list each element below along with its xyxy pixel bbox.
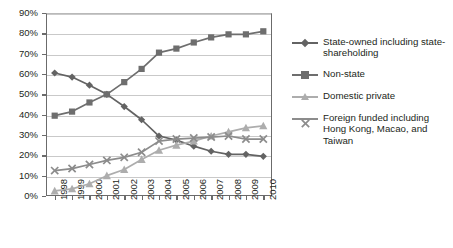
y-axis-tick-label: 80% bbox=[4, 28, 38, 38]
x-icon bbox=[292, 113, 318, 125]
y-axis-tick-label: 0% bbox=[4, 191, 38, 201]
y-axis-tick-mark bbox=[42, 33, 46, 34]
y-axis-tick-label: 40% bbox=[4, 110, 38, 120]
y-axis-tick-mark bbox=[42, 94, 46, 95]
gridline bbox=[47, 55, 271, 56]
x-axis-tick-label: 2003 bbox=[146, 179, 156, 200]
square-icon bbox=[292, 69, 318, 81]
gridline bbox=[47, 14, 271, 15]
x-axis-tick-label: 2007 bbox=[215, 179, 225, 200]
gridline bbox=[47, 116, 271, 117]
gridline bbox=[47, 95, 271, 96]
chart-figure: 90%80%70%60%50%40%30%20%10%0% 1998199920… bbox=[0, 0, 453, 248]
x-axis-tick-label: 2008 bbox=[233, 179, 243, 200]
y-axis-tick-mark bbox=[42, 176, 46, 177]
x-axis-tick-mark bbox=[229, 196, 230, 200]
x-axis-tick-mark bbox=[176, 196, 177, 200]
legend-item-3[interactable]: Foreign funded including Hong Kong, Maca… bbox=[292, 112, 450, 146]
x-axis-tick-mark bbox=[142, 196, 143, 200]
legend-item-1[interactable]: Non-state bbox=[292, 68, 450, 81]
chart-legend: State-owned including state-shareholding… bbox=[292, 36, 450, 155]
x-axis-tick-label: 1998 bbox=[59, 179, 69, 200]
x-axis-tick-mark bbox=[194, 196, 195, 200]
x-axis-tick-label: 2004 bbox=[163, 179, 173, 200]
gridline bbox=[47, 156, 271, 157]
y-axis-tick-mark bbox=[42, 155, 46, 156]
diamond-icon bbox=[292, 37, 318, 49]
x-axis-tick-mark bbox=[246, 196, 247, 200]
x-axis-tick-label: 2010 bbox=[268, 179, 278, 200]
y-axis-tick-label: 60% bbox=[4, 69, 38, 79]
x-axis-tick-label: 2000 bbox=[94, 179, 104, 200]
x-axis-tick-label: 2009 bbox=[250, 179, 260, 200]
x-axis-tick-label: 2002 bbox=[129, 179, 139, 200]
x-axis-tick-mark bbox=[72, 196, 73, 200]
x-axis-tick-mark bbox=[211, 196, 212, 200]
y-axis-tick-label: 30% bbox=[4, 130, 38, 140]
x-axis-tick-mark bbox=[263, 196, 264, 200]
legend-item-2[interactable]: Domestic private bbox=[292, 90, 450, 103]
gridline bbox=[47, 177, 271, 178]
y-axis-tick-label: 70% bbox=[4, 49, 38, 59]
gridline bbox=[47, 136, 271, 137]
y-axis-tick-mark bbox=[42, 135, 46, 136]
y-axis-tick-mark bbox=[42, 54, 46, 55]
x-axis-tick-mark bbox=[124, 196, 125, 200]
legend-item-label: Foreign funded including Hong Kong, Maca… bbox=[323, 112, 450, 146]
x-axis-tick-label: 2006 bbox=[198, 179, 208, 200]
x-axis-tick-mark bbox=[89, 196, 90, 200]
y-axis-tick-label: 10% bbox=[4, 171, 38, 181]
legend-item-label: Non-state bbox=[323, 68, 365, 79]
legend-item-label: State-owned including state-shareholding bbox=[323, 36, 450, 59]
y-axis-tick-mark bbox=[42, 13, 46, 14]
x-axis-tick-mark bbox=[107, 196, 108, 200]
gridline bbox=[47, 34, 271, 35]
gridline bbox=[47, 75, 271, 76]
y-axis-tick-label: 90% bbox=[4, 8, 38, 18]
x-axis-tick-mark bbox=[159, 196, 160, 200]
x-axis-tick-label: 1999 bbox=[76, 179, 86, 200]
triangle-icon bbox=[292, 91, 318, 103]
y-axis-tick-label: 50% bbox=[4, 89, 38, 99]
y-axis-tick-mark bbox=[42, 115, 46, 116]
y-axis-tick-mark bbox=[42, 74, 46, 75]
plot-area bbox=[46, 13, 272, 196]
legend-item-label: Domestic private bbox=[323, 90, 395, 101]
x-axis-tick-mark bbox=[55, 196, 56, 200]
legend-item-0[interactable]: State-owned including state-shareholding bbox=[292, 36, 450, 59]
x-axis-tick-label: 2005 bbox=[181, 179, 191, 200]
y-axis-tick-mark bbox=[42, 196, 46, 197]
y-axis-tick-label: 20% bbox=[4, 150, 38, 160]
x-axis-tick-label: 2001 bbox=[111, 179, 121, 200]
